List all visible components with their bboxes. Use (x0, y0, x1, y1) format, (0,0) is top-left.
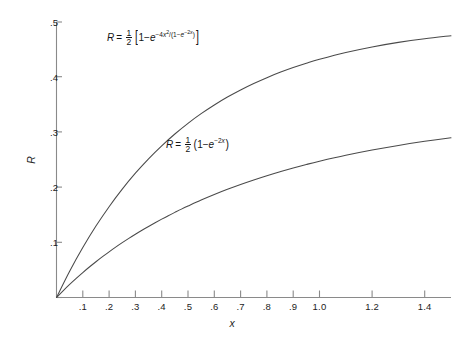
y-tick-label: .3 (50, 126, 58, 137)
y-tick-marks (57, 22, 63, 298)
formula-lower-paren-close: ) (225, 137, 228, 150)
curve-upper (57, 138, 452, 298)
x-tick-label: .4 (158, 301, 166, 312)
y-axis-title: R (25, 156, 37, 164)
formula-lower-paren-open: ( (193, 137, 196, 150)
y-tick-label: .2 (50, 182, 58, 193)
x-tick-label: .5 (184, 301, 192, 312)
formula-lower-exponent: −2x (214, 137, 225, 144)
formula-lower-half: 12 (185, 136, 192, 154)
annotation-formula-upper: R=12[1−e−4x2/(1−e−2x)] (107, 27, 200, 48)
y-tick-label: .1 (50, 237, 58, 248)
formula-lower-equals: = (173, 139, 183, 150)
formula-upper-inner-exponent: −2x (184, 29, 193, 35)
x-tick-label: .6 (210, 301, 218, 312)
y-tick-label: .5 (50, 17, 58, 28)
annotation-formula-lower: R=12(1−e−2x) (166, 136, 229, 154)
x-tick-label: .3 (131, 301, 139, 312)
plot-canvas (0, 0, 464, 338)
x-tick-label: 1.4 (418, 301, 432, 312)
formula-upper-equals: = (114, 32, 124, 43)
x-tick-label: .1 (79, 301, 87, 312)
chart-figure: .5 .4 .3 .2 .1 .1 .2 .3 .4 .5 .6 .7 .8 .… (0, 0, 464, 338)
y-tick-label: .4 (50, 71, 58, 82)
x-tick-label: .2 (105, 301, 113, 312)
x-tick-label: .9 (289, 301, 297, 312)
formula-upper-exponent: −4x2/(1−e−2x) (156, 31, 195, 38)
formula-upper-bracket-open: [ (135, 28, 138, 45)
formula-upper-half: 12 (126, 29, 133, 47)
x-tick-label: .8 (263, 301, 271, 312)
x-tick-label: 1.2 (365, 301, 379, 312)
formula-upper-bracket-close: ] (196, 28, 199, 45)
x-tick-label: .7 (236, 301, 244, 312)
x-axis-title: x (229, 317, 234, 329)
curve-lower (57, 36, 452, 298)
x-tick-marks (83, 291, 425, 298)
x-tick-label: 1.0 (313, 301, 327, 312)
